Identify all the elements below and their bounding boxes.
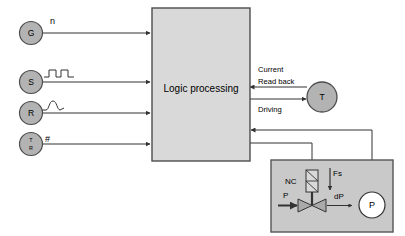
- current-readback-label-line1: Current: [258, 65, 284, 74]
- valve-coil-label: NC: [285, 177, 297, 186]
- input-connector-lines: [43, 33, 150, 144]
- input-node-tr-letter-bottom: R: [29, 145, 33, 151]
- current-readback-label-line2: Read back: [258, 77, 295, 86]
- pressure-gauge[interactable]: P: [359, 192, 385, 218]
- spring-force-label: Fs: [333, 169, 342, 178]
- diagram-svg: Logic processing G n S R T R # Curren: [0, 0, 405, 236]
- actuator-node-t[interactable]: T: [307, 82, 337, 112]
- actuator-node-t-letter: T: [319, 92, 324, 102]
- input-node-tr-signal-label: #: [45, 134, 50, 144]
- input-node-s-letter: S: [28, 77, 34, 87]
- bell-pulse-icon: [42, 101, 64, 110]
- solenoid-coil: [306, 170, 318, 192]
- input-node-g[interactable]: G n: [20, 16, 56, 45]
- logic-processing-label: Logic processing: [163, 83, 238, 94]
- driving-label: Driving: [258, 105, 282, 114]
- valve-assembly-panel[interactable]: NC P dP Fs P: [271, 160, 393, 232]
- input-node-r-letter: R: [28, 108, 34, 118]
- pressure-gauge-label: P: [369, 200, 375, 210]
- logic-processing-block[interactable]: Logic processing: [152, 8, 250, 161]
- input-node-g-letter: G: [28, 28, 35, 38]
- input-node-g-signal-label: n: [50, 16, 55, 26]
- diagram-canvas: Logic processing G n S R T R # Curren: [0, 0, 405, 236]
- square-wave-icon: [44, 70, 74, 77]
- valve-outlet-label: dP: [334, 192, 344, 201]
- valve-inlet-label: P: [283, 191, 288, 200]
